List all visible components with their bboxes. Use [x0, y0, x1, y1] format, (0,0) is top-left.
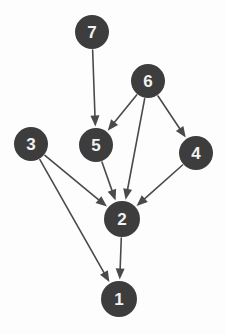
- arrowhead-6-to-2: [123, 188, 132, 200]
- arrowhead-6-to-4: [176, 126, 186, 138]
- graph-edge-5-to-2: [102, 162, 112, 192]
- graph-node-5[interactable]: 5: [79, 128, 113, 162]
- node-label-1: 1: [114, 290, 123, 309]
- graph-diagram: 7635421: [0, 0, 226, 334]
- graph-edge-3-to-1: [40, 160, 105, 274]
- graph-edge-3-to-2: [45, 155, 100, 200]
- graph-edge-7-to-5: [93, 50, 95, 117]
- node-label-5: 5: [91, 136, 100, 155]
- graph-edge-6-to-2: [127, 99, 144, 191]
- graph-edge-6-to-4: [158, 96, 180, 130]
- graph-edge-4-to-2: [144, 165, 183, 200]
- node-label-2: 2: [117, 210, 126, 229]
- node-label-6: 6: [143, 72, 152, 91]
- graph-node-1[interactable]: 1: [101, 281, 137, 317]
- node-label-7: 7: [87, 23, 96, 42]
- graph-canvas: 7635421: [0, 0, 226, 334]
- graph-node-3[interactable]: 3: [14, 127, 48, 161]
- graph-edge-6-to-5: [114, 95, 137, 123]
- arrowhead-5-to-2: [108, 189, 117, 201]
- node-label-4: 4: [191, 144, 201, 163]
- graph-node-6[interactable]: 6: [131, 64, 165, 98]
- arrowhead-3-to-1: [100, 270, 109, 282]
- graph-node-4[interactable]: 4: [179, 136, 213, 170]
- node-label-3: 3: [26, 135, 35, 154]
- graph-node-2[interactable]: 2: [104, 201, 140, 237]
- graph-edge-2-to-1: [120, 238, 121, 270]
- graph-node-7[interactable]: 7: [75, 15, 109, 49]
- arrowhead-2-to-1: [116, 268, 125, 279]
- arrowhead-7-to-5: [90, 115, 99, 126]
